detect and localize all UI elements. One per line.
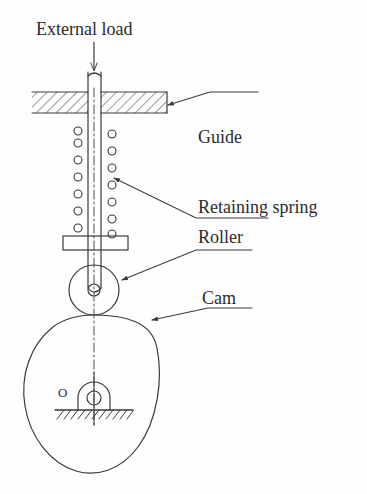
label-cam: Cam xyxy=(202,289,236,307)
leader-roller xyxy=(122,250,252,280)
guide-block xyxy=(32,92,167,113)
figure-canvas: External load Guide Retaining spring Rol… xyxy=(0,0,367,494)
roller xyxy=(69,265,119,315)
label-roller: Roller xyxy=(198,228,243,246)
follower-rod xyxy=(88,72,101,288)
label-retaining-spring: Retaining spring xyxy=(198,198,318,216)
leader-guide xyxy=(168,92,258,105)
label-pivot-point: O xyxy=(58,386,67,399)
leader-cam xyxy=(152,308,252,320)
retaining-spring xyxy=(74,127,116,238)
label-guide: Guide xyxy=(198,128,242,146)
spring-seat-plate xyxy=(63,236,128,250)
label-external-load: External load xyxy=(36,20,132,38)
cam-follower-diagram xyxy=(0,0,367,494)
cam-profile xyxy=(24,315,160,473)
